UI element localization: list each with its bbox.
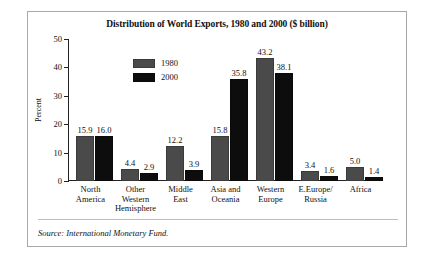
x-axis-label: WesternEurope	[248, 185, 293, 204]
x-axis-label-line: America	[68, 195, 113, 205]
x-axis-label: NorthAmerica	[68, 185, 113, 204]
bar-value-label: 35.8	[232, 68, 247, 78]
y-tick-label: 20	[54, 119, 63, 129]
chart-legend: 1980 2000	[133, 58, 178, 86]
bar-value-label: 2.9	[144, 162, 155, 172]
bar-value-label: 3.4	[305, 160, 316, 170]
source-note: Source: International Monetary Fund.	[38, 228, 168, 238]
bar	[301, 171, 319, 181]
chart-title: Distribution of World Exports, 1980 and …	[28, 19, 406, 29]
bar	[211, 136, 229, 181]
x-axis-label-line: Africa	[338, 185, 383, 195]
legend-label-2000: 2000	[161, 72, 178, 82]
y-tick-label: 30	[54, 91, 63, 101]
legend-swatch-icon-2000	[133, 73, 155, 82]
bar-value-label: 12.2	[168, 135, 183, 145]
legend-swatch-icon-1980	[133, 59, 155, 68]
x-axis-label: OtherWesternHemisphere	[113, 185, 158, 214]
bar-group: 15.916.0	[74, 39, 113, 181]
x-axis-labels: NorthAmericaOtherWesternHemisphereMiddle…	[68, 183, 383, 223]
bar-value-label: 3.9	[189, 159, 200, 169]
x-axis-label: Africa	[338, 185, 383, 195]
bar-value-label: 16.0	[97, 125, 112, 135]
bar-value-label: 38.1	[277, 62, 292, 72]
bar	[166, 146, 184, 181]
legend-label-1980: 1980	[161, 58, 178, 68]
bar-group: 15.835.8	[209, 39, 248, 181]
plot-area: Percent 01020304050 15.916.04.42.912.23.…	[68, 39, 383, 181]
chart-figure: Distribution of World Exports, 1980 and …	[27, 11, 407, 247]
x-axis-label: Asia andOceania	[203, 185, 248, 204]
legend-item-2000: 2000	[133, 72, 178, 82]
bar-group: 5.01.4	[344, 39, 383, 181]
bar	[346, 167, 364, 181]
y-tick-mark	[64, 181, 69, 182]
bar-value-label: 1.4	[369, 166, 380, 176]
bar-group: 43.238.1	[254, 39, 293, 181]
bar	[140, 173, 158, 181]
x-axis-label: MiddleEast	[158, 185, 203, 204]
bar-value-label: 1.6	[324, 165, 335, 175]
x-axis-label-line: Oceania	[203, 195, 248, 205]
x-axis-label-line: Europe	[248, 195, 293, 205]
source-divider	[38, 219, 398, 220]
y-tick-label: 50	[54, 34, 63, 44]
bar	[365, 177, 383, 181]
bar-value-label: 15.9	[78, 125, 93, 135]
bar-group: 3.41.6	[299, 39, 338, 181]
bar	[76, 136, 94, 181]
bar	[95, 136, 113, 181]
y-axis-title: Percent	[34, 98, 43, 122]
bar	[256, 58, 274, 181]
legend-item-1980: 1980	[133, 58, 178, 68]
x-axis-label-line: East	[158, 195, 203, 205]
bar-series-container: 15.916.04.42.912.23.915.835.843.238.13.4…	[68, 39, 383, 181]
bar-value-label: 15.8	[213, 125, 228, 135]
x-axis-label-line: Hemisphere	[113, 204, 158, 214]
bar-value-label: 5.0	[350, 156, 361, 166]
bar-value-label: 4.4	[125, 158, 136, 168]
y-tick-label: 0	[58, 176, 62, 186]
x-axis-label-line: Russia	[293, 195, 338, 205]
x-axis-label: E.Europe/Russia	[293, 185, 338, 204]
bar	[185, 170, 203, 181]
y-tick-label: 40	[54, 62, 63, 72]
bar-value-label: 43.2	[258, 47, 273, 57]
y-tick-label: 10	[54, 148, 63, 158]
bar	[230, 79, 248, 181]
bar	[275, 73, 293, 181]
bar	[121, 169, 139, 181]
bar	[320, 176, 338, 181]
